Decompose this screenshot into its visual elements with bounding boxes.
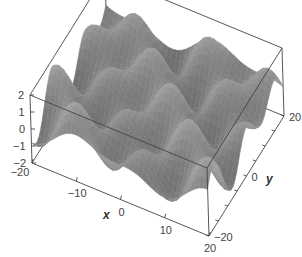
- z-tick-label: 1: [18, 106, 24, 118]
- z-tick-label: −2: [13, 157, 26, 169]
- y-tick-mark: [253, 160, 256, 161]
- y-tick-label: −20: [214, 231, 233, 243]
- x-tick-label: 0: [118, 206, 124, 218]
- y-tick-mark: [244, 175, 247, 176]
- y-tick-mark: [262, 145, 265, 146]
- x-axis-title: x: [102, 208, 111, 222]
- surface-plot: −20−1001020−20020−2−1012 x y: [0, 0, 302, 257]
- y-tick-label: 20: [289, 111, 301, 123]
- y-tick-mark: [225, 205, 228, 206]
- z-tick-label: −1: [13, 140, 26, 152]
- x-tick-label: 10: [160, 224, 172, 236]
- y-tick-mark: [272, 130, 275, 131]
- x-tick-mark: [165, 214, 166, 218]
- y-tick-mark: [234, 190, 237, 191]
- surface-mesh: [31, 5, 283, 201]
- x-tick-label: −10: [68, 187, 87, 199]
- right-vertical-edge: [282, 48, 284, 116]
- y-tick-label: 0: [252, 171, 258, 183]
- x-tick-mark: [121, 196, 122, 200]
- x-tick-mark: [76, 177, 77, 181]
- x-tick-label: 20: [204, 242, 216, 254]
- y-axis-title: y: [265, 172, 274, 186]
- y-tick-mark: [215, 220, 218, 221]
- z-tick-label: 0: [19, 123, 25, 135]
- z-tick-label: 2: [18, 89, 24, 101]
